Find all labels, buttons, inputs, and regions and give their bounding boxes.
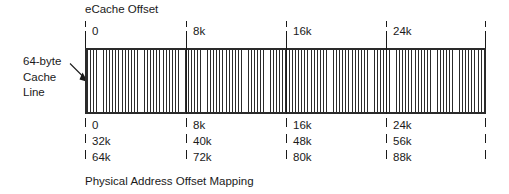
bottom-label-c2-r1: 48k: [293, 135, 312, 148]
bottom-tick-c1-r2: [186, 150, 187, 159]
top-tick-0: [85, 21, 86, 27]
cache-line-label: 64-byte Cache Line: [23, 54, 61, 101]
bottom-label-c0-r2: 64k: [92, 151, 111, 164]
bottom-tick-c3-r2: [386, 150, 387, 159]
bottom-label-c2-r2: 80k: [293, 151, 312, 164]
top-tick-label-8k: 8k: [193, 25, 205, 38]
top-tick-24k: [386, 21, 387, 27]
diagram-caption: Physical Address Offset Mapping: [85, 175, 254, 188]
top-tick-label-16k: 16k: [293, 25, 312, 38]
top-tick-16k: [286, 21, 287, 27]
top-tick-16k-b: [286, 31, 287, 49]
bottom-tick-c2-r0: [286, 118, 287, 127]
cache-line-label-line-2: Cache: [23, 70, 61, 86]
ecache-offset-diagram: eCache Offset 64-byte Cache Line 0 8k 16…: [0, 0, 509, 194]
top-tick-end-b: [485, 31, 486, 49]
bottom-label-c3-r1: 56k: [393, 135, 412, 148]
bottom-tick-c0-r2: [85, 150, 86, 159]
bottom-tick-c2-r1: [286, 134, 287, 143]
bottom-tick-c4-r0: [485, 118, 486, 127]
bottom-label-c3-r0: 24k: [393, 119, 412, 132]
top-tick-label-24k: 24k: [393, 25, 412, 38]
bottom-label-c1-r1: 40k: [193, 135, 212, 148]
bottom-tick-c0-r1: [85, 134, 86, 143]
bottom-tick-c3-r1: [386, 134, 387, 143]
bottom-label-c1-r2: 72k: [193, 151, 212, 164]
top-tick-label-0: 0: [92, 25, 98, 38]
bottom-tick-c1-r0: [186, 118, 187, 127]
bottom-label-c0-r0: 0: [92, 119, 98, 132]
cache-bar-divider-16k: [286, 48, 287, 114]
cache-line-label-line-1: 64-byte: [23, 54, 61, 70]
bottom-label-c1-r0: 8k: [193, 119, 205, 132]
bottom-tick-c4-r2: [485, 150, 486, 159]
cache-bar-divider-8k: [186, 48, 187, 114]
bottom-tick-c2-r2: [286, 150, 287, 159]
bottom-tick-c1-r1: [186, 134, 187, 143]
top-tick-0-b: [85, 31, 86, 49]
diagram-title: eCache Offset: [85, 3, 158, 16]
top-tick-end: [485, 21, 486, 27]
cache-bar-divider-24k: [386, 48, 387, 114]
bottom-tick-c3-r0: [386, 118, 387, 127]
bottom-label-c0-r1: 32k: [92, 135, 111, 148]
top-tick-24k-b: [386, 31, 387, 49]
bottom-label-c2-r0: 16k: [293, 119, 312, 132]
bottom-label-c3-r2: 88k: [393, 151, 412, 164]
top-tick-8k: [186, 21, 187, 27]
top-tick-8k-b: [186, 31, 187, 49]
bottom-tick-c0-r0: [85, 118, 86, 127]
cache-line-label-line-3: Line: [23, 85, 61, 101]
bottom-tick-c4-r1: [485, 134, 486, 143]
